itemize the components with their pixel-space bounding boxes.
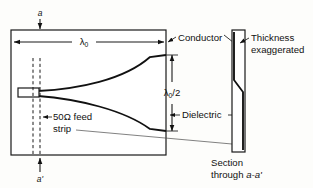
section-caption-line1: Section (211, 157, 243, 168)
conductor-annotation: Conductor (168, 32, 238, 46)
section-marker-a-bottom: a' (37, 158, 44, 184)
feed-strip-label-line2: strip (53, 123, 71, 134)
dielectric-label: Dielectric (182, 109, 222, 120)
antenna-diagram: a λ0 50Ω feed strip (0, 0, 313, 188)
section-caption: Section through a-a' (211, 157, 263, 180)
dielectric-annotation: Dielectric (170, 109, 239, 120)
section-marker-a-top: a (38, 8, 43, 29)
section-label-a-bottom: a' (37, 174, 44, 184)
feed-strip-rect (18, 88, 39, 97)
thickness-label-line2: exaggerated (251, 44, 304, 55)
lambda-half-label: λ0/2 (164, 87, 181, 99)
figure-root: a λ0 50Ω feed strip (0, 0, 313, 188)
section-caption-line2: through a-a' (211, 169, 263, 180)
thickness-label-line1: Thickness (251, 32, 294, 43)
conductor-label: Conductor (178, 32, 223, 43)
section-label-a-top: a (38, 8, 43, 18)
thickness-annotation: Thickness exaggerated (240, 32, 304, 55)
conductor-leader-left (168, 37, 176, 42)
section-bar-group (232, 30, 245, 152)
feed-strip-label-line1: 50Ω feed (53, 111, 92, 122)
